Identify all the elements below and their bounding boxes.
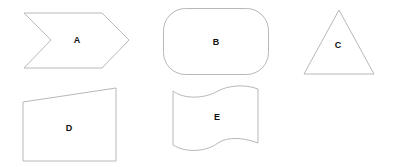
- shape-a-chevron[interactable]: A: [24, 13, 129, 68]
- shape-b-rounded-rectangle[interactable]: B: [164, 9, 269, 75]
- shape-e-label: E: [214, 112, 220, 122]
- shape-e-wave[interactable]: E: [173, 86, 258, 151]
- diagram-canvas: A B C D E: [0, 0, 395, 167]
- shape-b-label: B: [213, 37, 220, 47]
- shape-a-label: A: [74, 35, 81, 45]
- shape-d-trapezoid[interactable]: D: [23, 88, 116, 161]
- shape-d-label: D: [66, 123, 73, 133]
- shape-c-triangle[interactable]: C: [304, 10, 374, 74]
- shape-c-label: C: [335, 40, 342, 50]
